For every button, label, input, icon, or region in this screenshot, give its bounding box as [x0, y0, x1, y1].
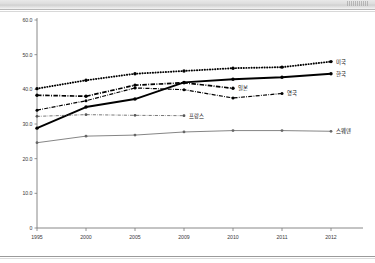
series-line [37, 115, 184, 117]
data-point-marker [84, 95, 87, 98]
data-point-marker [329, 60, 332, 63]
data-point-marker [232, 129, 235, 132]
x-axis-tick-label: 1995 [31, 234, 43, 240]
page-top-band [0, 0, 375, 9]
page-bottom-rule-secondary [0, 258, 375, 259]
series-label-한국: 한국 [336, 71, 346, 78]
page-bottom-rule [0, 256, 375, 257]
chart-page: 60.050.040.030.020.010.00199520002005200… [0, 0, 375, 263]
data-point-marker [85, 99, 88, 102]
x-axis-tick-label: 2012 [325, 234, 337, 240]
data-point-marker [133, 72, 136, 75]
data-point-marker [133, 97, 136, 100]
data-point-marker [84, 105, 87, 108]
data-point-marker [280, 76, 283, 79]
y-axis-tick-label: 30.0 [22, 121, 32, 127]
data-point-marker [231, 78, 234, 81]
page-top-rule [0, 9, 375, 10]
data-point-marker [85, 113, 88, 116]
data-point-marker [134, 86, 137, 89]
series-label-프랑스: 프랑스 [189, 113, 204, 119]
data-point-marker [280, 65, 283, 68]
data-point-marker [183, 88, 186, 91]
data-point-marker [36, 115, 39, 118]
series-layer [35, 60, 332, 144]
y-axis-tick-label: 20.0 [22, 156, 32, 162]
series-label-미국: 미국 [336, 58, 346, 66]
data-point-marker [232, 97, 235, 100]
data-point-marker [134, 134, 137, 137]
data-point-marker [85, 135, 88, 138]
data-point-marker [231, 66, 234, 69]
x-axis-tick-label: 2000 [80, 234, 92, 240]
x-axis-tick-label: 2011 [276, 234, 287, 240]
data-point-marker [35, 94, 38, 97]
y-axis-tick-label: 50.0 [22, 52, 32, 58]
x-axis-tick-label: 2010 [227, 234, 239, 240]
series-line [37, 62, 331, 89]
data-point-marker [281, 92, 284, 95]
series-label-스웨덴: 스웨덴 [336, 127, 351, 135]
x-axis-tick-label: 2005 [129, 234, 141, 240]
y-axis-tick-label: 40.0 [22, 86, 32, 92]
data-point-marker [329, 72, 332, 75]
data-point-marker [84, 79, 87, 82]
data-point-marker [35, 126, 38, 129]
data-point-marker [36, 109, 39, 112]
data-point-marker [182, 81, 185, 84]
header-mark-icon [347, 1, 369, 6]
data-point-marker [134, 114, 137, 117]
series-label-영국: 영국 [287, 89, 297, 97]
data-point-marker [35, 87, 38, 90]
series-4 [36, 113, 186, 118]
x-axis-tick-label: 2009 [178, 234, 190, 240]
data-point-marker [330, 130, 333, 133]
data-point-marker [231, 87, 234, 90]
data-point-marker [182, 69, 185, 72]
data-point-marker [36, 141, 39, 144]
y-axis-tick-label: 10.0 [22, 190, 32, 196]
series-0 [35, 60, 332, 90]
data-point-marker [183, 114, 186, 117]
data-point-marker [183, 131, 186, 134]
series-5 [36, 129, 333, 144]
chart-canvas: 60.050.040.030.020.010.00199520002005200… [0, 12, 375, 250]
series-label-일본: 일본 [238, 84, 248, 91]
y-axis-tick-label: 60.0 [22, 17, 32, 23]
y-axis-tick-label: 0 [30, 225, 33, 231]
data-point-marker [133, 83, 136, 86]
line-chart: 60.050.040.030.020.010.00199520002005200… [0, 12, 375, 250]
axis-layer: 60.050.040.030.020.010.00199520002005200… [22, 17, 363, 240]
data-point-marker [281, 129, 284, 132]
